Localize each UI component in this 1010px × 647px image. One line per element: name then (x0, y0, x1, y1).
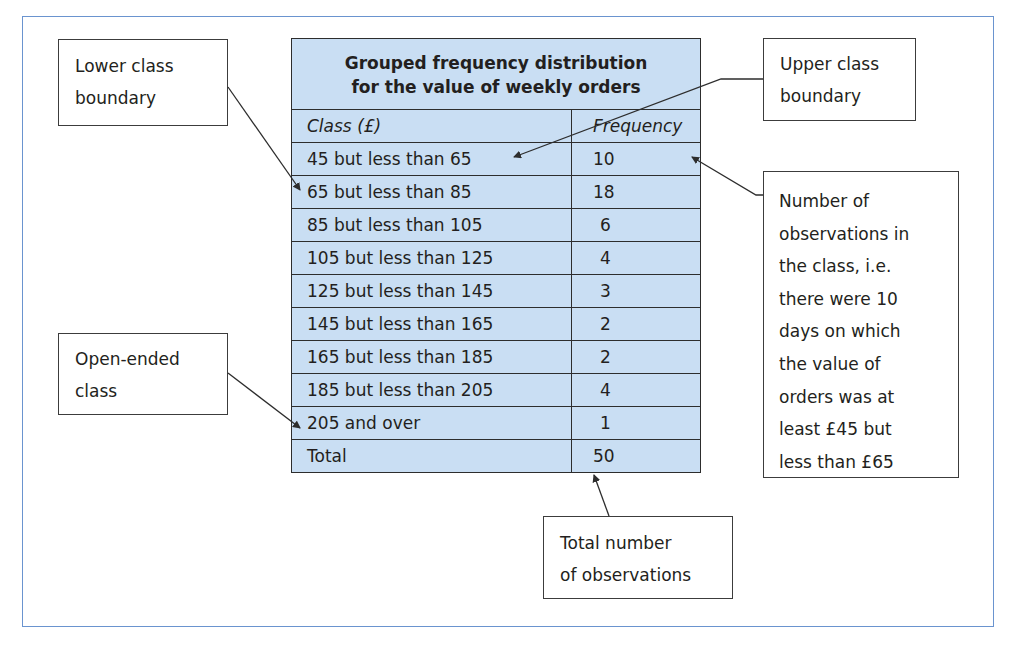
frequency-cell: 18 (572, 176, 701, 209)
callout-text: there were 10 (779, 283, 958, 316)
frequency-cell: 4 (572, 374, 701, 407)
callout-open-ended-class: Open-ended class (58, 333, 228, 415)
callout-text: the class, i.e. (779, 250, 958, 283)
callout-text: less than £65 (779, 446, 958, 479)
callout-text: the value of (779, 348, 958, 381)
callout-total-observations: Total number of observations (543, 516, 733, 599)
table-header-row: Class (£) Frequency (292, 110, 701, 143)
table-title-row: Grouped frequency distribution for the v… (292, 39, 701, 110)
callout-observations-in-class: Number of observations in the class, i.e… (763, 171, 959, 478)
table-row: 105 but less than 125 4 (292, 242, 701, 275)
frequency-cell: 2 (572, 308, 701, 341)
table-title-line-1: Grouped frequency distribution (345, 53, 648, 73)
column-header-frequency: Frequency (572, 110, 701, 143)
table-row: 165 but less than 185 2 (292, 341, 701, 374)
total-label: Total (292, 440, 572, 473)
frequency-cell: 10 (572, 143, 701, 176)
callout-text: Lower class (75, 50, 227, 82)
table-row: 65 but less than 85 18 (292, 176, 701, 209)
callout-lower-class-boundary: Lower class boundary (58, 39, 228, 126)
table-row: 45 but less than 65 10 (292, 143, 701, 176)
total-value: 50 (572, 440, 701, 473)
callout-text: boundary (75, 82, 227, 114)
class-cell: 165 but less than 185 (292, 341, 572, 374)
callout-text: orders was at (779, 381, 958, 414)
callout-text: Upper class (780, 48, 915, 80)
column-header-class: Class (£) (292, 110, 572, 143)
callout-text: least £45 but (779, 413, 958, 446)
callout-text: Number of (779, 185, 958, 218)
table-row: 145 but less than 165 2 (292, 308, 701, 341)
frequency-cell: 1 (572, 407, 701, 440)
table-row: 125 but less than 145 3 (292, 275, 701, 308)
callout-text: boundary (780, 80, 915, 112)
class-cell: 185 but less than 205 (292, 374, 572, 407)
table-title-line-2: for the value of weekly orders (351, 77, 640, 97)
table-total-row: Total 50 (292, 440, 701, 473)
callout-text: of observations (560, 559, 732, 591)
callout-text: days on which (779, 315, 958, 348)
callout-text: observations in (779, 218, 958, 251)
frequency-cell: 2 (572, 341, 701, 374)
class-cell: 85 but less than 105 (292, 209, 572, 242)
class-cell: 45 but less than 65 (292, 143, 572, 176)
class-cell: 125 but less than 145 (292, 275, 572, 308)
callout-text: Total number (560, 527, 732, 559)
table-title: Grouped frequency distribution for the v… (292, 39, 701, 110)
frequency-cell: 4 (572, 242, 701, 275)
table-row: 185 but less than 205 4 (292, 374, 701, 407)
table-row: 205 and over 1 (292, 407, 701, 440)
frequency-cell: 3 (572, 275, 701, 308)
class-cell: 145 but less than 165 (292, 308, 572, 341)
table-row: 85 but less than 105 6 (292, 209, 701, 242)
callout-upper-class-boundary: Upper class boundary (763, 38, 916, 121)
callout-text: class (75, 375, 227, 407)
frequency-table: Grouped frequency distribution for the v… (291, 38, 701, 473)
frequency-cell: 6 (572, 209, 701, 242)
callout-text: Open-ended (75, 343, 227, 375)
class-cell: 105 but less than 125 (292, 242, 572, 275)
class-cell: 205 and over (292, 407, 572, 440)
class-cell: 65 but less than 85 (292, 176, 572, 209)
